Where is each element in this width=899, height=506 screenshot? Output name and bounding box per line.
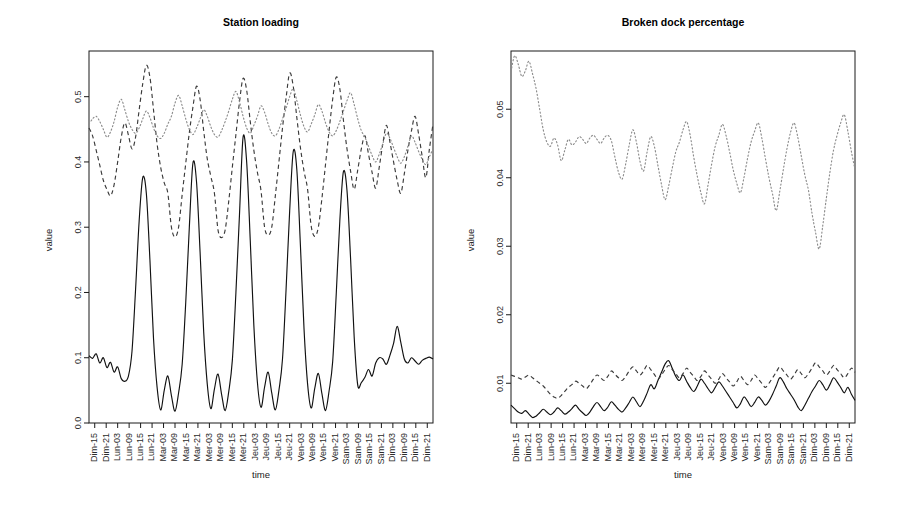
x-tick-label: Sam-03: [763, 433, 773, 465]
x-tick-label: Jeu-21: [284, 433, 294, 461]
panel-station-loading: Station loading value time 0.00.10.20.30…: [0, 0, 450, 506]
y-tick-label: 0.3: [73, 221, 83, 234]
y-tick-label: 0.2: [73, 286, 83, 299]
x-tick-label: Mar-15: [181, 433, 191, 462]
x-tick-label: Lun-09: [124, 433, 134, 461]
x-tick-label: Jeu-03: [672, 433, 682, 461]
x-tick-label: Dim-15: [410, 433, 420, 462]
figure-root: Station loading value time 0.00.10.20.30…: [0, 0, 899, 506]
x-tick-label: Dim-03: [387, 433, 397, 462]
x-tick-label: Lun-15: [557, 433, 567, 461]
x-tick-label: Dim-21: [523, 433, 533, 462]
x-tick-label: Ven-21: [330, 433, 340, 462]
x-tick-label: Mar-03: [580, 433, 590, 462]
x-tick-label: Mer-09: [215, 433, 225, 462]
x-tick-label: Lun-03: [112, 433, 122, 461]
x-tick-label: Dim-09: [399, 433, 409, 462]
x-tick-label: Sam-21: [376, 433, 386, 465]
x-tick-label: Mar-09: [169, 433, 179, 462]
x-tick-label: Mar-15: [603, 433, 613, 462]
x-tick-label: Dim-21: [844, 433, 854, 462]
plot-area-left: 0.00.10.20.30.40.5Dim-15Dim-21Lun-03Lun-…: [73, 51, 433, 465]
x-tick-label: Mer-15: [227, 433, 237, 462]
y-tick-label: 0.4: [73, 156, 83, 169]
x-tick-label: Jeu-15: [273, 433, 283, 461]
x-tick-label: Ven-03: [718, 433, 728, 462]
x-tick-label: Mar-09: [591, 433, 601, 462]
x-tick-label: Lun-21: [568, 433, 578, 461]
y-tick-label: 0.02: [495, 306, 505, 324]
x-tick-label: Dim-09: [821, 433, 831, 462]
plot-box: [511, 51, 855, 423]
chart-title-left: Station loading: [223, 16, 299, 28]
y-tick-label: 0.04: [495, 169, 505, 187]
y-tick-label: 0.03: [495, 237, 505, 255]
x-tick-label: Ven-15: [740, 433, 750, 462]
chart-broken-dock-percentage: Broken dock percentage value time 0.010.…: [449, 0, 899, 506]
y-tick-label: 0.0: [73, 417, 83, 430]
x-axis-label-right: time: [674, 469, 692, 480]
x-tick-label: Mar-21: [192, 433, 202, 462]
y-tick-label: 0.1: [73, 351, 83, 364]
series-line-dotted: [511, 56, 855, 249]
x-tick-label: Jeu-21: [706, 433, 716, 461]
x-tick-label: Jeu-09: [261, 433, 271, 461]
x-tick-label: Sam-09: [353, 433, 363, 465]
x-tick-label: Mer-09: [637, 433, 647, 462]
x-tick-label: Dim-21: [422, 433, 432, 462]
x-tick-label: Dim-21: [101, 433, 111, 462]
x-tick-label: Ven-09: [307, 433, 317, 462]
x-tick-label: Ven-21: [752, 433, 762, 462]
y-tick-label: 0.01: [495, 374, 505, 392]
x-tick-label: Mer-15: [649, 433, 659, 462]
series-line-solid: [89, 135, 433, 412]
series-line-dashed: [511, 363, 855, 399]
x-tick-label: Sam-15: [786, 433, 796, 465]
x-tick-label: Lun-03: [534, 433, 544, 461]
x-tick-label: Ven-15: [318, 433, 328, 462]
x-tick-label: Sam-03: [341, 433, 351, 465]
x-tick-label: Lun-15: [135, 433, 145, 461]
y-tick-label: 0.5: [73, 90, 83, 103]
x-tick-label: Ven-03: [296, 433, 306, 462]
plot-box: [89, 51, 433, 423]
x-tick-label: Dim-15: [89, 433, 99, 462]
x-tick-label: Dim-15: [832, 433, 842, 462]
plot-area-right: 0.010.020.030.040.05Dim-15Dim-21Lun-03Lu…: [495, 51, 855, 465]
x-tick-label: Sam-09: [775, 433, 785, 465]
x-tick-label: Sam-15: [364, 433, 374, 465]
x-tick-label: Dim-03: [809, 433, 819, 462]
x-tick-label: Jeu-15: [695, 433, 705, 461]
x-tick-label: Mer-21: [238, 433, 248, 462]
x-axis-label-left: time: [252, 469, 270, 480]
x-tick-label: Mar-21: [614, 433, 624, 462]
x-tick-label: Mer-03: [626, 433, 636, 462]
x-tick-label: Ven-09: [729, 433, 739, 462]
panel-broken-dock-percentage: Broken dock percentage value time 0.010.…: [449, 0, 899, 506]
y-axis-label-right: value: [465, 229, 476, 252]
series-line-dashed: [89, 65, 433, 237]
x-tick-label: Mer-03: [204, 433, 214, 462]
chart-title-right: Broken dock percentage: [622, 16, 745, 28]
x-tick-label: Lun-21: [146, 433, 156, 461]
x-tick-label: Sam-21: [798, 433, 808, 465]
x-tick-label: Lun-09: [546, 433, 556, 461]
chart-station-loading: Station loading value time 0.00.10.20.30…: [0, 0, 450, 506]
x-tick-label: Jeu-09: [683, 433, 693, 461]
y-axis-label-left: value: [43, 229, 54, 252]
x-tick-label: Jeu-03: [250, 433, 260, 461]
x-tick-label: Mer-21: [660, 433, 670, 462]
y-tick-label: 0.05: [495, 100, 505, 118]
series-line-solid: [511, 361, 855, 418]
x-tick-label: Mar-03: [158, 433, 168, 462]
x-tick-label: Dim-15: [511, 433, 521, 462]
